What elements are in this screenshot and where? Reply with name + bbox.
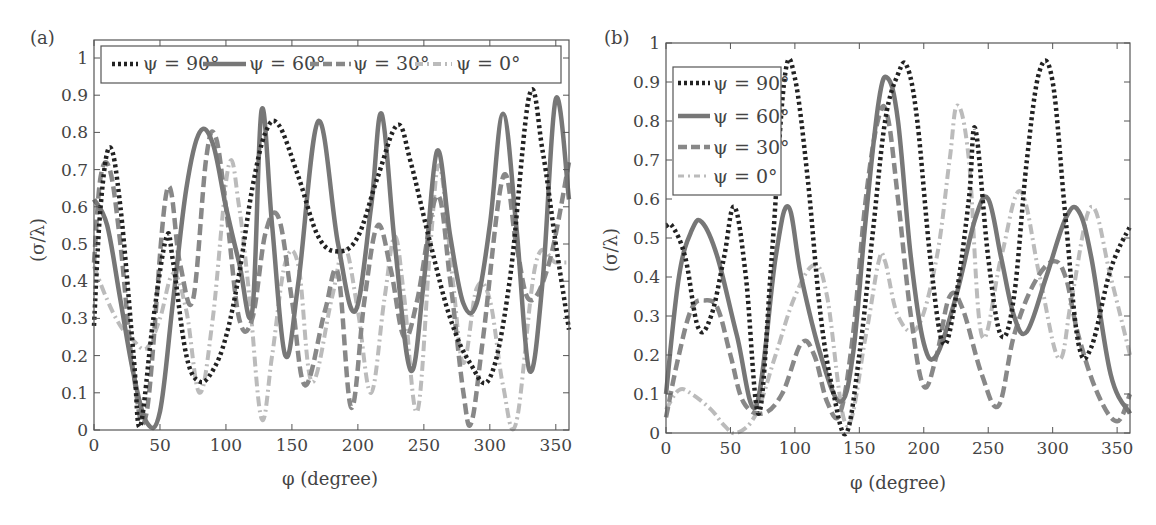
x-tick-label: 0 — [89, 435, 100, 455]
y-tick-label: 1 — [77, 48, 88, 68]
y-tick-label: 0.7 — [61, 160, 88, 180]
panel-b-label: (b) — [604, 27, 630, 48]
panel-b-y-axis-title: (σ/λ) — [600, 228, 621, 272]
y-tick-label: 0.7 — [633, 150, 660, 170]
y-tick-label: 0.6 — [633, 189, 660, 209]
panel-a-label: (a) — [30, 27, 55, 48]
y-tick-label: 0.3 — [633, 306, 660, 326]
x-tick-label: 350 — [540, 435, 572, 455]
y-tick-label: 0 — [649, 423, 660, 443]
x-tick-label: 250 — [408, 435, 440, 455]
panel-b-legend: ψ = 90° ψ = 60° ψ = 30° ψ = 0° — [673, 67, 790, 195]
x-tick-label: 200 — [908, 438, 940, 458]
panel-a-y-axis-title: (σ/λ) — [27, 218, 48, 262]
panel-a-x-axis-title: φ (degree) — [282, 468, 378, 489]
x-tick-label: 50 — [720, 438, 742, 458]
x-tick-label: 200 — [342, 435, 374, 455]
y-tick-label: 0.3 — [61, 308, 88, 328]
y-tick-label: 0.2 — [633, 345, 660, 365]
y-tick-label: 1 — [649, 33, 660, 53]
y-tick-label: 0.9 — [61, 85, 88, 105]
panel-b-x-axis-title: φ (degree) — [850, 472, 946, 493]
legend-label-psi-0: ψ = 0° — [713, 165, 778, 187]
x-tick-label: 300 — [1036, 438, 1068, 458]
y-tick-label: 0.5 — [633, 228, 660, 248]
x-tick-label: 100 — [779, 438, 811, 458]
y-tick-label: 0.5 — [61, 234, 88, 254]
y-tick-label: 0.6 — [61, 197, 88, 217]
panel-b: (b) 050100150200250300350 00.10.20.30.40… — [600, 27, 1133, 493]
x-tick-label: 100 — [210, 435, 242, 455]
y-tick-label: 0.1 — [633, 384, 660, 404]
x-tick-label: 350 — [1101, 438, 1133, 458]
legend-label-psi-60: ψ = 60° — [713, 105, 790, 127]
y-tick-label: 0.9 — [633, 72, 660, 92]
figure: (a) 050100150200250300350 00.10.20.30.40… — [0, 0, 1156, 525]
legend-label-psi-90: ψ = 90° — [713, 72, 790, 94]
panel-a-legend: ψ = 90° ψ = 60° ψ = 30° ψ = 0° — [101, 46, 561, 83]
x-tick-label: 150 — [843, 438, 875, 458]
x-tick-label: 300 — [474, 435, 506, 455]
y-tick-label: 0.4 — [61, 271, 88, 291]
series-line-solid — [94, 97, 569, 428]
y-tick-label: 0.2 — [61, 346, 88, 366]
y-tick-label: 0.8 — [633, 111, 660, 131]
x-tick-label: 250 — [972, 438, 1004, 458]
y-tick-label: 0.1 — [61, 383, 88, 403]
x-tick-label: 50 — [149, 435, 171, 455]
y-tick-label: 0 — [77, 420, 88, 440]
x-tick-label: 150 — [276, 435, 308, 455]
legend-label-psi-0: ψ = 0° — [456, 52, 521, 74]
legend-label-psi-30: ψ = 30° — [713, 136, 790, 158]
panel-a: (a) 050100150200250300350 00.10.20.30.40… — [27, 27, 572, 489]
y-tick-label: 0.4 — [633, 267, 660, 287]
y-tick-label: 0.8 — [61, 122, 88, 142]
x-tick-label: 0 — [661, 438, 672, 458]
panel-a-curves — [94, 89, 569, 429]
